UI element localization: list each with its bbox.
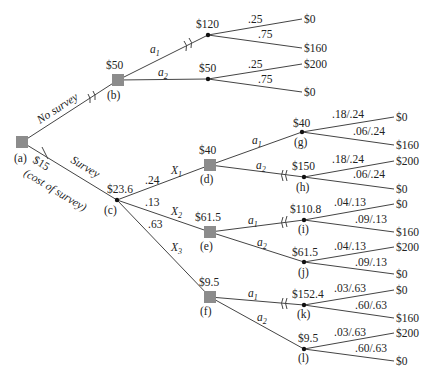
node-value-d: $40: [199, 144, 217, 156]
branch-label-x1: X1: [170, 164, 182, 179]
chance-node-k: [302, 303, 306, 307]
outcome-payoff: $0: [396, 284, 408, 296]
outcome-prob: .25: [248, 58, 263, 70]
outcome-prob: .04/.13: [334, 240, 366, 252]
node-label-l: (l): [298, 352, 309, 365]
node-value-e: $61.5: [195, 211, 221, 223]
branch-label-d-a1: a1: [252, 134, 262, 149]
node-value-i: $110.8: [290, 203, 321, 215]
branch-prob-x1: .24: [145, 174, 160, 186]
outcomes: .25 .75 $0 $160 .25 .75 $200 $0 .18/.24 …: [248, 13, 419, 367]
chance-node-j: [302, 260, 306, 264]
chance-node-b1: [206, 33, 210, 37]
branch-label-d-a2: a2: [256, 159, 266, 174]
node-label-g: (g): [294, 136, 308, 149]
node-label-e: (e): [200, 240, 213, 253]
branch-label-x3: X3: [170, 241, 182, 256]
branch-label-survey: Survey: [68, 153, 102, 181]
outcome-prob: .18/.24: [332, 153, 364, 165]
node-label-f: (f): [200, 305, 212, 318]
node-label-i: (i): [298, 223, 309, 236]
outcome-prob: .09/.13: [355, 256, 387, 268]
chance-node-g: [300, 130, 304, 134]
outcome-prob: .09/.13: [355, 213, 387, 225]
outcome-payoff: $0: [396, 268, 408, 280]
node-value-g: $40: [293, 117, 311, 129]
outcome-prob: .04/.13: [334, 196, 366, 208]
decision-node-b: [112, 74, 124, 86]
branch-label-e-a2: a2: [257, 236, 267, 251]
decision-node-d: [204, 159, 216, 171]
outcome-payoff: $0: [396, 111, 408, 123]
outcome-prob: .06/.24: [353, 168, 385, 180]
outcome-payoff: $0: [304, 13, 316, 25]
outcome-payoff: $0: [396, 198, 408, 210]
branch-f-a2: [210, 297, 304, 349]
outcome-prob: .25: [248, 13, 263, 25]
node-label-b: (b): [107, 89, 121, 102]
outcome-payoff: $160: [304, 42, 327, 54]
chance-node-c: [115, 198, 119, 202]
decision-node-f: [204, 291, 216, 303]
decision-node-e: [204, 226, 216, 238]
node-value-b: $50: [106, 59, 124, 71]
branch-prob-x2: .13: [145, 196, 160, 208]
node-label-k: (k): [297, 308, 311, 321]
branch-prob-x3: .63: [148, 218, 163, 230]
outcome-prob: .06/.24: [353, 125, 385, 137]
outcome-prob: .75: [258, 28, 273, 40]
node-value-b2: $50: [199, 62, 217, 74]
outcome-prob: .60/.63: [355, 299, 387, 311]
prune-mark-b-a1: [184, 38, 192, 51]
outcome-prob: .18/.24: [332, 108, 364, 120]
node-label-j: (j): [298, 266, 309, 279]
node-value-k: $152.4: [292, 288, 324, 300]
node-label-h: (h): [296, 181, 310, 194]
branch-label-x2: X2: [170, 205, 182, 220]
node-label-d: (d): [200, 173, 214, 186]
branch-label-f-a1: a1: [248, 287, 258, 302]
outcome-prob: .03/.63: [334, 282, 366, 294]
chance-node-i: [302, 218, 306, 222]
node-value-f: $9.5: [199, 276, 219, 288]
node-value-h: $150: [292, 160, 315, 172]
branch-labels: No survey Survey $15 (cost of survey) a1…: [21, 43, 266, 326]
branch-no-survey: [22, 80, 118, 142]
chance-node-b2: [206, 77, 210, 81]
chance-node-h: [302, 175, 306, 179]
outcome-payoff: $200: [396, 327, 419, 339]
outcome-payoff: $160: [396, 312, 419, 324]
outcome-payoff: $200: [304, 58, 327, 70]
decision-node-a: [16, 136, 28, 148]
node-value-b1: $120: [196, 18, 219, 30]
outcome-prob: .75: [258, 73, 273, 85]
chance-node-l: [302, 347, 306, 351]
outcome-prob: .03/.63: [334, 326, 366, 338]
outcome-prob: .60/.63: [355, 342, 387, 354]
node-value-j: $61.5: [292, 246, 318, 258]
outcome-payoff: $160: [396, 139, 419, 151]
outcome-payoff: $0: [396, 355, 408, 367]
prune-mark-d-a2: [282, 170, 288, 181]
branch-b1-o2: [208, 35, 302, 48]
node-value-c: $23.6: [107, 183, 133, 195]
branch-label-b-a2: a2: [158, 66, 168, 81]
outcome-payoff: $0: [396, 183, 408, 195]
branch-label-b-a1: a1: [150, 43, 160, 58]
outcome-payoff: $200: [396, 155, 419, 167]
decision-tree-diagram: (a) $50 (b) $120 $50 $23.6 (c) $40 (d) $…: [0, 0, 439, 382]
outcome-payoff: $200: [396, 241, 419, 253]
node-value-l: $9.5: [298, 332, 318, 344]
branch-b2-o2: [208, 79, 302, 92]
outcome-payoff: $160: [396, 226, 419, 238]
node-label-c: (c): [104, 204, 117, 217]
branch-label-survey-cost-note: (cost of survey): [21, 166, 89, 214]
node-label-a: (a): [14, 152, 27, 165]
outcome-payoff: $0: [304, 86, 316, 98]
